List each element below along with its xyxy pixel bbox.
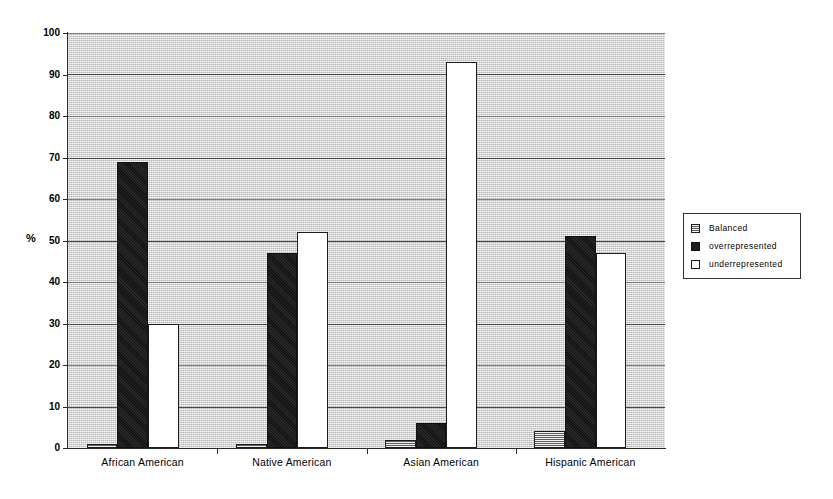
legend-label: overrepresented <box>709 241 777 251</box>
y-tick-label: 70 <box>32 153 60 163</box>
legend-swatch-icon <box>691 242 700 251</box>
y-tick-mark <box>63 116 67 117</box>
y-tick-label: 20 <box>32 360 60 370</box>
bar <box>416 423 447 448</box>
y-tick-label: 100 <box>32 28 60 38</box>
y-tick-label: 10 <box>32 402 60 412</box>
y-tick-mark <box>63 75 67 76</box>
bar-group <box>236 33 328 448</box>
y-tick-label: 0 <box>32 443 60 453</box>
bar <box>117 162 148 448</box>
y-tick-label: 60 <box>32 194 60 204</box>
bar <box>267 253 298 448</box>
y-tick-mark <box>63 324 67 325</box>
bar-chart: % 1009080706050403020100 African America… <box>0 0 833 499</box>
legend-label: Balanced <box>709 223 748 233</box>
chart-legend: Balancedoverrepresentedunderrepresented <box>683 213 801 279</box>
bar <box>148 324 179 449</box>
x-axis-category-label: Native American <box>217 456 367 468</box>
bar-group <box>385 33 477 448</box>
y-tick-label: 90 <box>32 70 60 80</box>
x-axis-tick <box>367 449 368 454</box>
x-axis-category-label: Asian American <box>366 456 516 468</box>
y-tick-label: 30 <box>32 319 60 329</box>
y-tick-mark <box>63 365 67 366</box>
legend-label: underrepresented <box>709 259 783 269</box>
legend-swatch-icon <box>691 260 700 269</box>
y-tick-mark <box>63 158 67 159</box>
y-tick-mark <box>63 241 67 242</box>
y-tick-label: 40 <box>32 277 60 287</box>
bar <box>385 440 416 448</box>
y-tick-label: 80 <box>32 111 60 121</box>
bar <box>596 253 627 448</box>
legend-item: overrepresented <box>691 238 794 254</box>
bar-group <box>534 33 626 448</box>
y-tick-mark <box>63 33 67 34</box>
x-axis-category-label: Hispanic American <box>515 456 665 468</box>
bar <box>446 62 477 448</box>
y-axis-line <box>67 32 68 449</box>
x-axis-category-label: African American <box>68 456 218 468</box>
plot-area <box>68 33 665 448</box>
y-tick-mark <box>63 282 67 283</box>
legend-item: underrepresented <box>691 256 794 272</box>
x-axis-tick <box>516 449 517 454</box>
y-tick-label: 50 <box>32 236 60 246</box>
y-tick-mark <box>63 199 67 200</box>
y-tick-mark <box>63 448 67 449</box>
legend-item: Balanced <box>691 220 794 236</box>
x-axis-tick <box>217 449 218 454</box>
bar-group <box>87 33 179 448</box>
bar <box>297 232 328 448</box>
bar <box>534 431 565 448</box>
legend-swatch-icon <box>691 224 700 233</box>
bar <box>565 236 596 448</box>
y-tick-mark <box>63 407 67 408</box>
